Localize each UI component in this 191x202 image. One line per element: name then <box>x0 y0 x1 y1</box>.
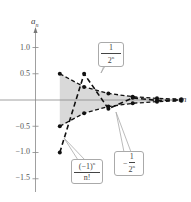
data-point <box>58 124 62 128</box>
y-tick-label: 1.0 <box>2 43 30 52</box>
callout-lower-leader <box>116 112 131 152</box>
callout-lower-bound: − 1 2n <box>114 151 144 176</box>
y-tick-label: −1.0 <box>2 147 30 156</box>
data-point <box>58 151 62 155</box>
data-point <box>131 101 135 105</box>
callout-seq-leader <box>64 138 85 160</box>
callout-upper-bound: 1 2n <box>98 42 124 67</box>
data-point <box>131 96 135 100</box>
y-axis-arrow-icon <box>34 27 38 33</box>
y-tick-label: −0.5 <box>2 122 30 131</box>
data-point <box>58 72 62 76</box>
data-point <box>82 85 86 89</box>
data-point <box>155 98 159 102</box>
data-point <box>106 91 110 95</box>
y-tick-label: 0.5 <box>2 69 30 78</box>
callout-sequence: (−1)n n! <box>71 159 103 184</box>
data-point <box>106 107 110 111</box>
data-point <box>82 72 86 76</box>
data-point <box>82 111 86 115</box>
y-tick-label: −1.5 <box>2 173 30 182</box>
y-axis-title: an <box>31 16 39 28</box>
x-axis-title: n <box>182 94 187 104</box>
